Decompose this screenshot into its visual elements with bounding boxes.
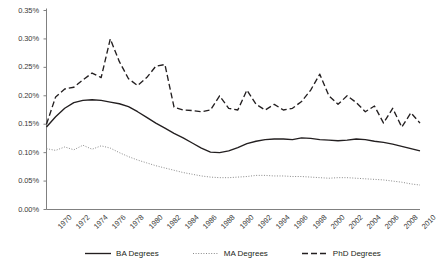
legend-line-icon xyxy=(193,250,219,257)
chart-legend: BA DegreesMA DegreesPhD Degrees xyxy=(46,245,420,261)
series-line-phd-degrees xyxy=(47,39,421,127)
y-tick-label: 0.30% xyxy=(5,34,39,43)
legend-line-icon xyxy=(302,250,328,257)
legend-item-phd-degrees[interactable]: PhD Degrees xyxy=(302,249,381,258)
y-tick-label: 0.35% xyxy=(5,6,39,15)
legend-label: MA Degrees xyxy=(224,249,268,258)
legend-item-ba-degrees[interactable]: BA Degrees xyxy=(85,249,159,258)
y-tick-label: 0.25% xyxy=(5,62,39,71)
series-line-ba-degrees xyxy=(47,100,421,153)
y-tick-label: 0.10% xyxy=(5,148,39,157)
legend-item-ma-degrees[interactable]: MA Degrees xyxy=(193,249,268,258)
legend-label: BA Degrees xyxy=(116,249,159,258)
chart-series xyxy=(47,39,421,185)
chart-axes xyxy=(44,9,421,210)
series-line-ma-degrees xyxy=(47,145,421,185)
legend-label: PhD Degrees xyxy=(333,249,381,258)
y-tick-label: 0.15% xyxy=(5,119,39,128)
y-tick-label: 0.20% xyxy=(5,91,39,100)
legend-line-icon xyxy=(85,250,111,257)
y-tick-label: 0.00% xyxy=(5,205,39,214)
y-tick-label: 0.05% xyxy=(5,176,39,185)
